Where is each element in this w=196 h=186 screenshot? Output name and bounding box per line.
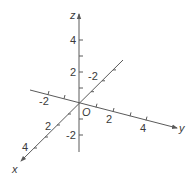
x-axis-label: x — [11, 163, 18, 175]
y-axis-label: y — [178, 122, 186, 134]
x-tick-label-neg2: -2 — [88, 70, 98, 82]
origin-label: O — [82, 106, 91, 118]
y-tick-label-4: 4 — [140, 122, 146, 134]
z-tick-label-neg2: -2 — [66, 129, 76, 141]
z-axis — [79, 14, 83, 152]
3d-coordinate-axes-diagram: z 4 2 -2 y -2 2 4 x 4 2 -2 O — [0, 0, 196, 186]
x-tick-label-2: 2 — [45, 120, 51, 132]
z-axis-label: z — [69, 9, 76, 21]
x-tick-label-4: 4 — [22, 141, 28, 153]
y-tick-label-2: 2 — [106, 113, 112, 125]
z-tick-label-2: 2 — [70, 66, 76, 78]
y-tick-label-neg2: -2 — [39, 95, 49, 107]
z-tick-label-4: 4 — [70, 34, 76, 46]
y-axis — [30, 90, 177, 128]
